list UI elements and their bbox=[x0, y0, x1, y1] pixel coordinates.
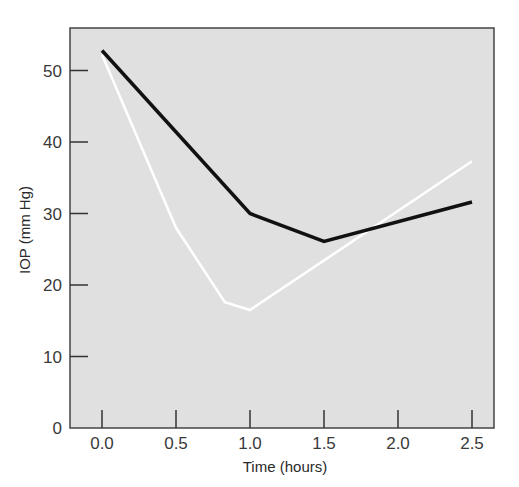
x-tick-label: 1.0 bbox=[238, 434, 262, 453]
chart: 01020304050 0.00.51.01.52.02.5 Time (hou… bbox=[0, 0, 519, 487]
x-tick-label: 0.5 bbox=[164, 434, 188, 453]
x-axis-label: Time (hours) bbox=[243, 458, 327, 475]
y-tick-label: 40 bbox=[43, 133, 62, 152]
y-tick-label: 20 bbox=[43, 276, 62, 295]
x-tick-label: 1.5 bbox=[312, 434, 336, 453]
x-tick-label: 2.0 bbox=[386, 434, 410, 453]
y-tick-label: 30 bbox=[43, 205, 62, 224]
y-tick-label: 0 bbox=[53, 419, 62, 438]
y-tick-label: 50 bbox=[43, 62, 62, 81]
plot-area bbox=[70, 28, 494, 428]
y-axis-label: IOP (mm Hg) bbox=[16, 186, 33, 274]
y-tick-label: 10 bbox=[43, 348, 62, 367]
x-tick-label: 0.0 bbox=[90, 434, 114, 453]
x-tick-label: 2.5 bbox=[460, 434, 484, 453]
